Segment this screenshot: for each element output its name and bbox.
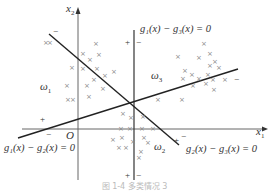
- svg-text:×: ×: [86, 93, 92, 101]
- svg-text:×: ×: [182, 67, 188, 75]
- svg-text:×: ×: [189, 71, 195, 79]
- svg-text:×: ×: [130, 138, 136, 146]
- origin-label: O: [66, 129, 74, 141]
- boundary-label-g2-g3: g₂(x) − g₃(x) = 0: [186, 143, 257, 154]
- svg-text:×: ×: [203, 80, 209, 88]
- svg-text:×: ×: [47, 39, 53, 47]
- x2-subscript: 2: [71, 9, 75, 17]
- svg-text:×: ×: [222, 76, 228, 84]
- svg-text:×: ×: [180, 75, 186, 83]
- svg-text:×: ×: [123, 144, 129, 152]
- omega3-subscript: 3: [159, 76, 163, 84]
- x2-axis: [76, 7, 81, 180]
- svg-text:×: ×: [128, 114, 134, 122]
- svg-text:×: ×: [196, 75, 202, 83]
- svg-text:×: ×: [136, 154, 142, 162]
- omega2-subscript: 2: [162, 147, 166, 155]
- region-label-omega3: ω3: [151, 69, 162, 84]
- svg-text:×: ×: [140, 113, 146, 121]
- svg-text:×: ×: [201, 40, 207, 48]
- g1g2-plus-left: +: [40, 114, 45, 124]
- svg-text:×: ×: [111, 68, 117, 76]
- svg-text:×: ×: [116, 144, 122, 152]
- figure-caption: 图 1-4 多类情况 3: [0, 180, 269, 191]
- g1g2-minus-left: −: [46, 129, 51, 139]
- svg-text:×: ×: [207, 50, 213, 58]
- diagram-canvas: ××× ××× ××× ××× ××× ××× ××× ××× ××× ××× …: [0, 0, 269, 191]
- svg-text:×: ×: [175, 53, 181, 61]
- svg-text:×: ×: [211, 86, 217, 94]
- svg-text:×: ×: [84, 82, 90, 90]
- omega1-text: ω: [40, 80, 48, 92]
- boundary-label-g1-g3: g₁(x) − g₃(x) = 0: [140, 23, 211, 34]
- svg-text:×: ×: [80, 50, 86, 58]
- svg-text:×: ×: [96, 51, 102, 59]
- g2g3-plus-bottom: +: [174, 135, 179, 145]
- omega3-text: ω: [151, 69, 159, 81]
- svg-text:×: ×: [196, 54, 202, 62]
- svg-text:×: ×: [70, 96, 76, 104]
- g2g3-minus-bottom: −: [181, 131, 186, 141]
- x1-axis: [22, 127, 268, 132]
- g1g3-plus-bottom: +: [125, 170, 130, 180]
- left-diagonal-minus-top: −: [53, 26, 58, 36]
- region-label-omega2: ω2: [154, 140, 165, 155]
- svg-text:×: ×: [155, 96, 161, 104]
- svg-text:×: ×: [119, 134, 125, 142]
- svg-text:×: ×: [210, 76, 216, 84]
- samples-omega3: ××× ××× ××× ××× ××× ××× ×: [155, 40, 228, 104]
- svg-text:×: ×: [216, 64, 222, 72]
- omega1-subscript: 1: [48, 87, 52, 95]
- samples-omega2: ××× ××× ××× ××× ××× ×: [110, 110, 156, 162]
- boundary-label-g1-g2: g₁(x) − g₂(x) = 0: [4, 142, 75, 153]
- svg-text:×: ×: [110, 136, 116, 144]
- x1-subscript: 1: [261, 132, 265, 140]
- svg-text:×: ×: [145, 139, 151, 147]
- svg-text:×: ×: [207, 62, 213, 70]
- svg-text:×: ×: [127, 125, 133, 133]
- svg-text:×: ×: [118, 125, 124, 133]
- g1g3-minus-bottom: −: [136, 170, 141, 180]
- svg-text:×: ×: [190, 82, 196, 90]
- region-label-omega1: ω1: [40, 80, 51, 95]
- svg-text:×: ×: [91, 76, 97, 84]
- svg-text:×: ×: [93, 40, 99, 48]
- svg-text:×: ×: [69, 64, 75, 72]
- svg-text:×: ×: [64, 82, 70, 90]
- svg-text:×: ×: [100, 85, 106, 93]
- omega2-text: ω: [154, 140, 162, 152]
- svg-text:×: ×: [80, 65, 86, 73]
- svg-text:×: ×: [87, 56, 93, 64]
- svg-text:×: ×: [139, 125, 145, 133]
- g1g3-plus-top: +: [125, 37, 130, 47]
- g1g2-minus-right: −: [234, 74, 239, 84]
- x1-axis-label: x1: [256, 125, 264, 140]
- x2-axis-label: x2: [66, 2, 74, 17]
- g1g3-minus-top: −: [136, 37, 141, 47]
- svg-text:×: ×: [120, 110, 126, 118]
- svg-text:×: ×: [102, 72, 108, 80]
- svg-text:×: ×: [150, 125, 156, 133]
- svg-text:×: ×: [179, 96, 185, 104]
- samples-omega1: ××× ××× ××× ××× ××× ×××: [43, 39, 117, 104]
- svg-text:×: ×: [94, 65, 100, 73]
